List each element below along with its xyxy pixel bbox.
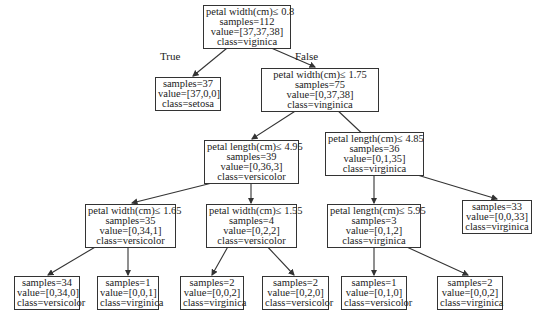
node-class: class=versicolor <box>207 172 296 182</box>
node-class: class=versicolor <box>209 236 294 246</box>
tree-node-35: petal width(cm)≤ 1.65 samples=35 value=[… <box>85 204 176 248</box>
tree-leaf-34: samples=34 value=[0,34,0] class=versicol… <box>14 276 80 310</box>
node-class: class=virginica <box>465 222 529 232</box>
node-class: class=viginica <box>206 37 288 47</box>
tree-leaf-33: samples=33 value=[0,0,33] class=virginic… <box>462 200 532 234</box>
tree-leaf-1-versicolor: samples=1 value=[0,1,0] class=versicolor <box>341 276 407 310</box>
tree-leaf-2-virginica-b: samples=2 value=[0,0,2] class=virginica <box>437 276 503 310</box>
node-class: class=virginica <box>328 164 421 174</box>
tree-leaf-2-versicolor: samples=2 value=[0,2,0] class=versicolor <box>262 276 329 310</box>
tree-node-75: petal width(cm)≤ 1.75 samples=75 value=[… <box>261 68 379 112</box>
tree-node-39: petal length(cm)≤ 4.95 samples=39 value=… <box>204 140 299 184</box>
node-class: class=versicolor <box>88 236 173 246</box>
node-class: class=versicolor <box>344 298 404 308</box>
tree-leaf-setosa: samples=37 value=[37,0,0] class=setosa <box>155 77 221 111</box>
tree-node-3: petal length(cm)≤ 5.95 samples=3 value=[… <box>327 204 421 248</box>
node-class: class=virginica <box>440 298 500 308</box>
node-class: class=virginica <box>330 236 418 246</box>
node-class: class=setosa <box>158 99 218 109</box>
node-class: class=virginica <box>100 298 156 308</box>
tree-leaf-1-virginica: samples=1 value=[0,0,1] class=virginica <box>97 276 159 310</box>
tree-node-4: petal width(cm)≤ 1.55 samples=4 value=[0… <box>206 204 297 248</box>
tree-leaf-2-virginica-a: samples=2 value=[0,0,2] class=virginica <box>180 276 244 310</box>
node-class: class=vinginica <box>264 100 376 110</box>
false-edge-label: False <box>295 50 318 62</box>
tree-node-root: petal width(cm)≤ 0.8 samples=112 value=[… <box>203 5 291 49</box>
true-edge-label: True <box>160 50 180 62</box>
node-class: class=versicolor <box>17 298 77 308</box>
node-class: class=virginica <box>183 298 241 308</box>
tree-node-36: petal length(cm)≤ 4.85 samples=36 value=… <box>325 132 424 176</box>
node-class: class=versicolor <box>265 298 326 308</box>
